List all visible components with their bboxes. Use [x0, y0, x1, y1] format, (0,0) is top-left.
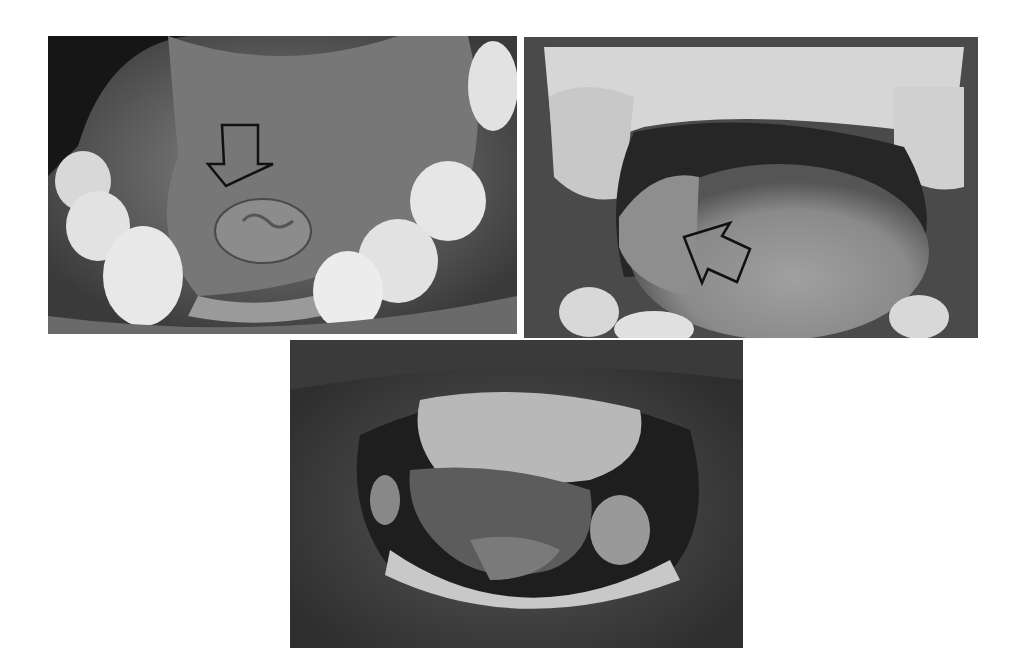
oral-photo-exophytic-lesion: [290, 340, 743, 648]
photo-panel-top-left: [48, 36, 517, 334]
photo-panel-top-right: [524, 37, 978, 338]
oral-photo-floor-of-mouth: [48, 36, 517, 334]
oral-photo-dorsal-tongue: [524, 37, 978, 338]
photo-panel-bottom: [290, 340, 743, 648]
